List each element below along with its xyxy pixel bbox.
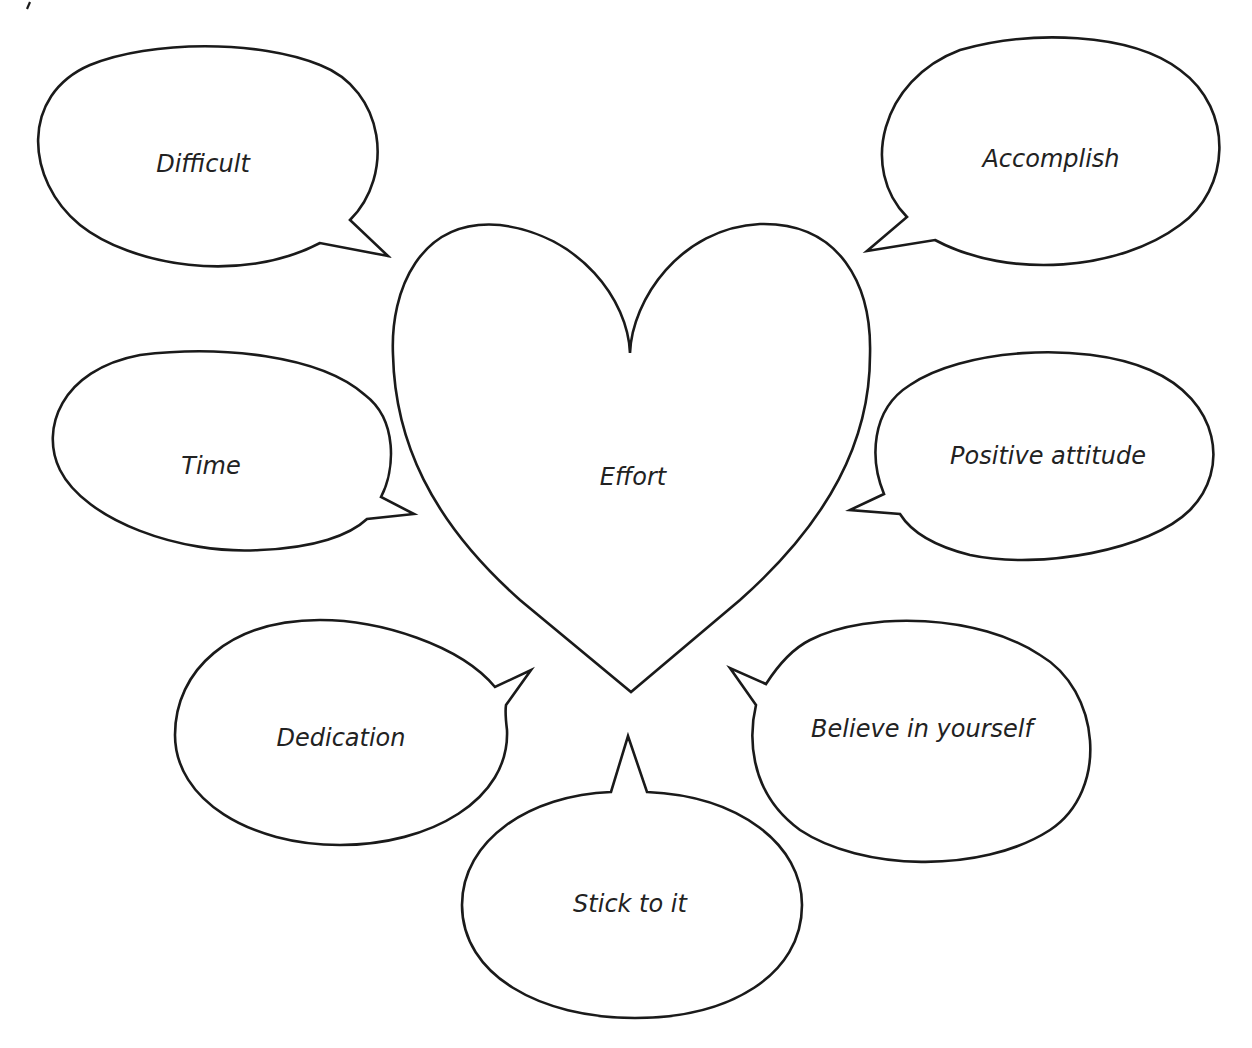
bubble-label-accomplish: Accomplish <box>980 145 1119 173</box>
speech-bubble-shape <box>53 351 414 550</box>
bubble-believe-in-yourself: Believe in yourself <box>730 621 1090 862</box>
bubble-accomplish: Accomplish <box>867 37 1219 265</box>
bubble-label-dedication: Dedication <box>276 724 405 752</box>
bubble-label-believe-in-yourself: Believe in yourself <box>811 715 1036 743</box>
bubble-label-stick-to-it: Stick to it <box>573 890 688 918</box>
heart-label-effort: Effort <box>600 463 668 491</box>
bubble-positive-attitude: Positive attitude <box>850 352 1213 560</box>
bubble-label-time: Time <box>181 452 240 480</box>
bubble-difficult: Difficult <box>38 46 388 266</box>
heart-shape <box>393 224 870 692</box>
heart-effort: Effort <box>393 224 870 692</box>
bubble-time: Time <box>53 351 414 550</box>
bubble-stick-to-it: Stick to it <box>462 736 802 1018</box>
speech-bubble-shape <box>462 736 802 1018</box>
concept-web-diagram: Difficult Accomplish Time Positive attit… <box>0 0 1252 1048</box>
bubble-dedication: Dedication <box>175 620 531 845</box>
cropped-text-fragment <box>27 2 30 9</box>
bubble-label-positive-attitude: Positive attitude <box>950 442 1146 470</box>
bubble-label-difficult: Difficult <box>156 150 251 178</box>
